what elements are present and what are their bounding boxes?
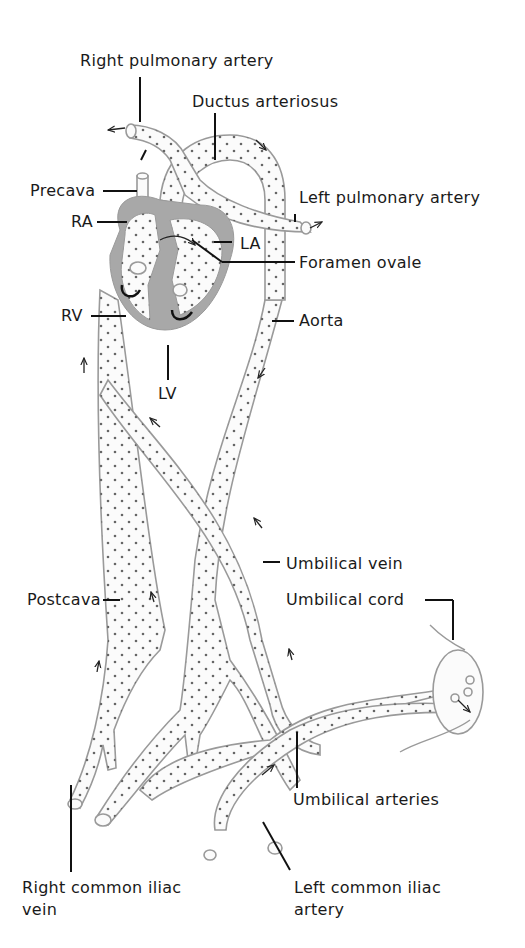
label-lv: LV	[158, 384, 177, 403]
label-umbilical-arteries: Umbilical arteries	[293, 790, 439, 809]
label-umbilical-vein: Umbilical vein	[286, 554, 403, 573]
label-left-common-iliac-artery-line1: Left common iliac	[294, 878, 441, 897]
label-left-pulmonary-artery: Left pulmonary artery	[299, 188, 480, 207]
label-postcava: Postcava	[27, 590, 101, 609]
label-rv: RV	[61, 306, 83, 325]
postcava-vessel	[68, 290, 165, 809]
label-right-common-iliac-vein-line1: Right common iliac	[22, 878, 181, 897]
label-precava: Precava	[30, 181, 95, 200]
label-ra: RA	[71, 212, 93, 231]
label-ductus-arteriosus: Ductus arteriosus	[192, 92, 338, 111]
heart	[110, 196, 234, 330]
label-aorta: Aorta	[299, 311, 344, 330]
umbilical-cord	[400, 625, 483, 752]
fetal-circulation-diagram	[0, 0, 525, 948]
label-right-common-iliac-vein-line2: vein	[22, 900, 57, 919]
label-left-common-iliac-artery-line2: artery	[294, 900, 344, 919]
label-foramen-ovale: Foramen ovale	[299, 253, 422, 272]
label-umbilical-cord: Umbilical cord	[286, 590, 404, 609]
label-right-pulmonary-artery: Right pulmonary artery	[80, 51, 274, 70]
label-la: LA	[240, 234, 261, 253]
